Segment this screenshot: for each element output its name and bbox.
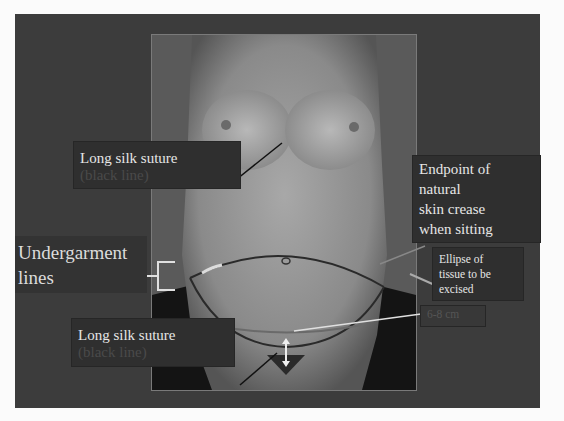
label-endpoint-line2: natural — [419, 179, 540, 199]
label-endpoint-line3: skin crease — [419, 199, 540, 219]
label-measurement-text: 6-8 cm — [427, 308, 459, 320]
label-endpoint-line1: Endpoint of — [419, 159, 540, 179]
label-ellipse-line2: tissue to be — [439, 267, 523, 282]
label-undergarment-lines: Undergarment lines — [18, 240, 127, 290]
label-measurement: 6-8 cm — [421, 306, 485, 326]
label-top-silk-suture: Long silk suture (black line) — [74, 142, 240, 188]
label-endpoint-skin-crease: Endpoint of natural skin crease when sit… — [413, 156, 540, 242]
label-ellipse-line3: excised — [439, 282, 523, 297]
label-endpoint-line4: when sitting — [419, 219, 540, 239]
label-bottom-silk-suture: Long silk suture (black line) — [72, 319, 234, 366]
label-undergarment-line2: lines — [18, 265, 127, 290]
label-bottom-silk-suture-line2: (black line) — [78, 344, 234, 361]
label-bottom-silk-suture-line1: Long silk suture — [78, 327, 234, 344]
label-ellipse-tissue: Ellipse of tissue to be excised — [433, 248, 523, 300]
label-top-silk-suture-line1: Long silk suture — [80, 150, 240, 167]
label-undergarment-line1: Undergarment — [18, 240, 127, 265]
label-ellipse-line1: Ellipse of — [439, 252, 523, 267]
label-top-silk-suture-line2: (black line) — [80, 167, 240, 184]
